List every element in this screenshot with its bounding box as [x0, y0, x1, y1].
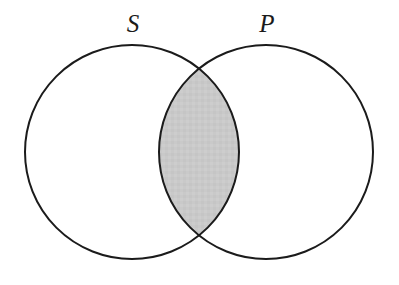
venn-diagram-figure: S P — [0, 0, 399, 285]
circle-s-label: S — [127, 10, 140, 37]
venn-diagram-canvas: S P — [0, 0, 399, 285]
circle-p-label: P — [258, 10, 274, 37]
